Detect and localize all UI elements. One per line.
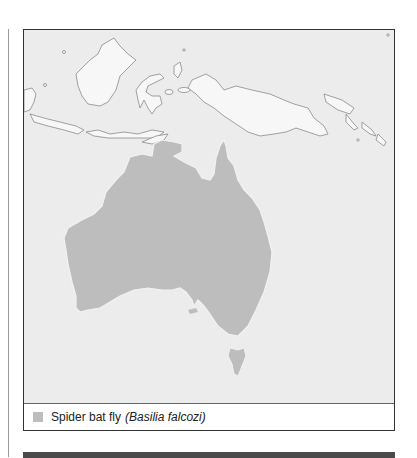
island-dot (183, 49, 185, 51)
sulawesi-outline (136, 74, 164, 114)
page-margin-rule (8, 29, 9, 457)
halmahera-outline (174, 62, 182, 78)
new-guinea-outline (188, 74, 328, 136)
buru-outline (165, 90, 173, 95)
new-britain-outline (324, 94, 354, 114)
section-divider-bar (23, 452, 395, 458)
borneo-outline (76, 38, 136, 106)
southeast-asia-outlines (24, 34, 389, 146)
java-outline (30, 114, 84, 134)
solomon-1-outline (346, 114, 358, 130)
solomon-3-outline (376, 134, 386, 146)
distribution-map (24, 30, 394, 404)
solomon-2-outline (362, 122, 376, 136)
map-legend: Spider bat fly (Basilia falcozi) (24, 404, 394, 430)
island-dot (63, 51, 66, 54)
island-dot (44, 84, 47, 87)
legend-common-name: Spider bat fly (51, 410, 121, 424)
australia-range (64, 140, 272, 336)
island-dot (357, 139, 359, 141)
sumatra-outline (24, 88, 36, 112)
tasmania-range (228, 348, 246, 376)
legend-scientific-name: (Basilia falcozi) (125, 410, 206, 424)
kangaroo-island (188, 308, 198, 314)
map-figure: Spider bat fly (Basilia falcozi) (23, 29, 395, 431)
map-svg (24, 30, 394, 403)
legend-swatch (33, 412, 43, 422)
lesser-sunda-outline (86, 130, 164, 138)
island-dot (387, 34, 389, 36)
